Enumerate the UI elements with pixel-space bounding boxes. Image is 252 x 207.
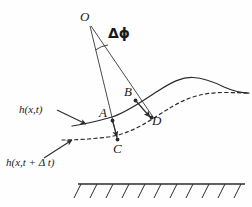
label-curve-h-x-t: h(x,t) (19, 104, 43, 115)
label-point-a: A (99, 106, 107, 119)
displacement-arrow-a-to-c (113, 121, 118, 137)
wave-displacement-figure: O Δϕ A B C D h(x,t) h(x,t + Δ t) (0, 0, 252, 207)
label-point-b: B (124, 85, 132, 98)
hatched-ground-line (74, 184, 245, 198)
label-point-d: D (152, 114, 161, 127)
point-marker-b (134, 99, 138, 103)
leader-arrow-solid-label (57, 110, 86, 124)
label-point-c: C (113, 142, 122, 155)
point-marker-a (111, 119, 115, 123)
label-curve-h-x-t-plus-delta-t: h(x,t + Δ t) (6, 157, 55, 168)
label-origin: O (80, 10, 89, 23)
label-angle-delta-phi: Δϕ (108, 26, 130, 40)
